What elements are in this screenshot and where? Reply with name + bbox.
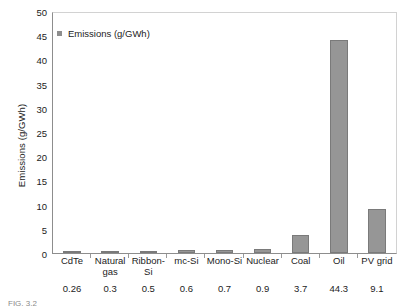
x-axis-value-labels: 0.26 0.3 0.5 0.6 0.7 0.9 3.7 44.3 9.1 <box>53 283 396 294</box>
y-tick-label: 15 <box>6 176 52 187</box>
bar-natural-gas[interactable] <box>101 251 119 253</box>
y-tick-label: 50 <box>6 7 52 18</box>
bar-mono-si[interactable] <box>216 250 234 253</box>
figure-caption: FIG. 3.2 <box>8 299 37 308</box>
x-label-ribbon-si: Ribbon-Si <box>129 256 167 277</box>
bar-cell <box>53 13 91 253</box>
value-label-pv-grid: 9.1 <box>358 283 396 294</box>
y-tick-label: 35 <box>6 79 52 90</box>
value-label-coal: 3.7 <box>282 283 320 294</box>
bar-cell <box>91 13 129 253</box>
value-label-oil: 44.3 <box>320 283 358 294</box>
bar-cell <box>282 13 320 253</box>
bar-cell <box>358 13 396 253</box>
bar-ribbon-si[interactable] <box>140 251 158 253</box>
bar-nuclear[interactable] <box>254 249 272 253</box>
x-axis-category-labels: CdTe Natural gas Ribbon-Si mc-Si Mono-Si… <box>53 256 396 277</box>
value-label-mc-si: 0.6 <box>167 283 205 294</box>
bar-mc-si[interactable] <box>178 250 196 253</box>
figure-container: Emissions (g/GWh) 50 45 40 35 30 25 20 1… <box>0 0 415 308</box>
x-label-mc-si: mc-Si <box>167 256 205 277</box>
x-label-oil: Oil <box>320 256 358 277</box>
bar-cell <box>320 13 358 253</box>
bar-coal[interactable] <box>292 235 310 253</box>
y-axis-tick-labels: 50 45 40 35 30 25 20 15 10 5 0 <box>0 0 52 308</box>
x-label-nuclear: Nuclear <box>244 256 282 277</box>
bar-cell <box>205 13 243 253</box>
x-label-natural-gas: Natural gas <box>91 256 129 277</box>
bar-cell <box>244 13 282 253</box>
y-tick-label: 10 <box>6 200 52 211</box>
y-tick-label: 25 <box>6 128 52 139</box>
x-label-pv-grid: PV grid <box>358 256 396 277</box>
y-tick-label: 0 <box>6 249 52 260</box>
y-tick-label: 40 <box>6 55 52 66</box>
bar-cdte[interactable] <box>63 251 81 253</box>
value-label-natural-gas: 0.3 <box>91 283 129 294</box>
value-label-ribbon-si: 0.5 <box>129 283 167 294</box>
bar-cell <box>129 13 167 253</box>
y-tick-label: 20 <box>6 152 52 163</box>
value-label-cdte: 0.26 <box>53 283 91 294</box>
y-tick-label: 30 <box>6 103 52 114</box>
y-tick-label: 45 <box>6 31 52 42</box>
x-label-coal: Coal <box>282 256 320 277</box>
bar-pv-grid[interactable] <box>368 209 386 253</box>
value-label-mono-si: 0.7 <box>205 283 243 294</box>
y-tick-label: 5 <box>6 224 52 235</box>
x-label-mono-si: Mono-Si <box>205 256 243 277</box>
x-label-cdte: CdTe <box>53 256 91 277</box>
bars-layer <box>53 13 396 253</box>
value-label-nuclear: 0.9 <box>244 283 282 294</box>
bar-cell <box>167 13 205 253</box>
bar-oil[interactable] <box>330 40 348 253</box>
